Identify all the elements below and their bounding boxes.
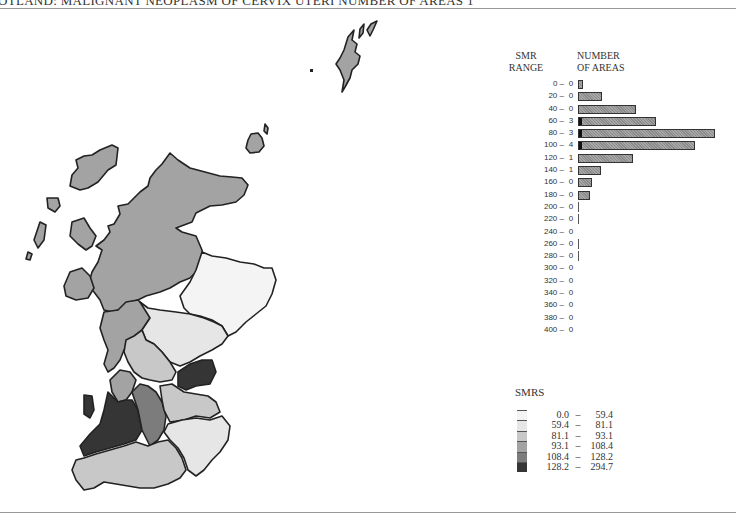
area-count: 0	[566, 79, 576, 88]
area-count: 0	[566, 313, 576, 322]
area-count: 0	[566, 202, 576, 211]
smr-range-label: 340 –	[520, 288, 564, 297]
area-count: 0	[566, 263, 576, 272]
header-range: RANGE	[500, 62, 552, 74]
smr-range-label: 0 –	[520, 79, 564, 88]
region-orkney	[246, 133, 264, 153]
header-of-areas: OF AREAS	[577, 62, 625, 74]
histogram-bar	[578, 191, 590, 200]
legend-swatch	[517, 452, 527, 462]
region-shetland-isle	[367, 21, 377, 36]
smr-range-label: 260 –	[520, 239, 564, 248]
bar-marker	[579, 142, 582, 149]
smr-range-label: 40 –	[520, 104, 564, 113]
region-western-isles-s2	[34, 222, 46, 248]
smr-range-label: 280 –	[520, 251, 564, 260]
legend-dash: –	[573, 462, 583, 472]
area-count: 0	[566, 190, 576, 199]
smr-range-label: 20 –	[520, 91, 564, 100]
area-count: 0	[566, 288, 576, 297]
smr-range-label: 80 –	[520, 128, 564, 137]
header-number: NUMBER	[577, 50, 625, 62]
legend-swatch	[517, 462, 527, 472]
bar-marker	[579, 130, 582, 137]
legend-swatch	[517, 410, 527, 420]
area-count: 0	[566, 239, 576, 248]
bottom-rule	[0, 512, 736, 513]
smr-range-label: 180 –	[520, 190, 564, 199]
legend-swatch	[517, 420, 527, 430]
smr-range-label: 60 –	[520, 116, 564, 125]
histogram-tick	[578, 239, 579, 249]
area-count: 0	[566, 325, 576, 334]
header-smr: SMR	[500, 50, 552, 62]
region-orkney-isle	[264, 124, 268, 134]
area-count: 0	[566, 276, 576, 285]
legend-high: 294.7	[583, 462, 613, 472]
area-count: 4	[566, 140, 576, 149]
smr-range-label: 400 –	[520, 325, 564, 334]
area-count: 0	[566, 104, 576, 113]
smr-range-label: 380 –	[520, 313, 564, 322]
hist-header-number-of-areas: NUMBER OF AREAS	[577, 50, 625, 74]
region-shetland-isle2	[359, 24, 364, 38]
smr-range-label: 160 –	[520, 177, 564, 186]
area-count: 0	[566, 251, 576, 260]
region-western-isles-s3	[26, 252, 32, 260]
smr-range-label: 320 –	[520, 276, 564, 285]
area-count: 1	[566, 165, 576, 174]
histogram-tick	[578, 202, 579, 212]
legend-title: SMRS	[515, 386, 544, 398]
smr-range-label: 120 –	[520, 153, 564, 162]
smr-range-label: 220 –	[520, 214, 564, 223]
area-count: 3	[566, 116, 576, 125]
region-lothian	[160, 384, 220, 422]
region-shetland	[336, 30, 360, 92]
area-count: 0	[566, 214, 576, 223]
histogram-bar	[578, 129, 715, 138]
region-islay	[84, 395, 94, 418]
hist-header-smr-range: SMR RANGE	[500, 50, 552, 74]
area-count: 3	[566, 128, 576, 137]
histogram-bar	[578, 141, 695, 150]
area-count: 0	[566, 300, 576, 309]
region-mull	[64, 268, 94, 300]
legend-low: 128.2	[537, 462, 569, 472]
histogram-bar	[578, 178, 592, 187]
area-count: 0	[566, 177, 576, 186]
smr-range-label: 360 –	[520, 300, 564, 309]
smr-range-label: 200 –	[520, 202, 564, 211]
smr-range-label: 100 –	[520, 140, 564, 149]
histogram-bar	[578, 154, 633, 163]
region-western-isles-s1	[47, 198, 60, 212]
histogram-bar	[578, 117, 656, 126]
region-western-isles	[70, 145, 118, 190]
histogram-tick	[578, 214, 579, 224]
region-skye	[70, 218, 96, 250]
histogram-bar	[578, 166, 601, 175]
smr-range-label: 300 –	[520, 263, 564, 272]
area-count: 0	[566, 227, 576, 236]
legend-swatch	[517, 431, 527, 441]
scotland-map	[0, 0, 500, 512]
area-count: 1	[566, 153, 576, 162]
histogram-bar	[578, 105, 636, 114]
histogram-bar	[578, 92, 602, 101]
histogram-tick	[578, 251, 579, 261]
fair-isle-marker	[310, 69, 313, 72]
smr-range-label: 240 –	[520, 227, 564, 236]
area-count: 0	[566, 91, 576, 100]
smr-range-label: 140 –	[520, 165, 564, 174]
legend-swatch	[517, 441, 527, 451]
bar-marker	[579, 118, 582, 125]
histogram-bar	[578, 80, 583, 89]
